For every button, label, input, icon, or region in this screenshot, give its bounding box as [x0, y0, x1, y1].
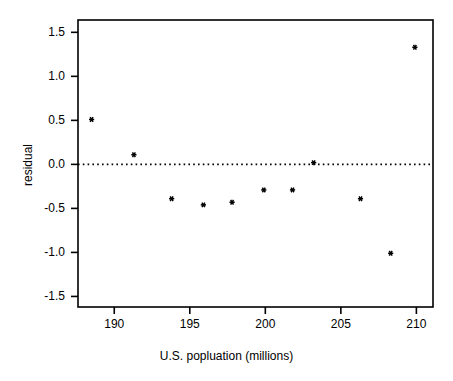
marker-center — [390, 252, 392, 254]
data-point — [261, 188, 266, 193]
data-point — [412, 45, 417, 50]
data-point — [358, 196, 363, 201]
marker-center — [263, 189, 265, 191]
x-tick-label-195: 195 — [170, 317, 210, 331]
x-tick-label-205: 205 — [321, 317, 361, 331]
y-tick-label-1.5: 1.5 — [25, 25, 65, 39]
x-tick-label-210: 210 — [396, 317, 436, 331]
marker-center — [171, 198, 173, 200]
data-point-series — [89, 45, 417, 256]
marker-center — [292, 189, 294, 191]
plot-frame — [78, 20, 433, 307]
marker-center — [91, 118, 93, 120]
data-point — [229, 200, 234, 205]
marker-center — [202, 204, 204, 206]
data-point — [89, 117, 94, 122]
marker-center — [133, 154, 135, 156]
marker-center — [313, 162, 315, 164]
x-tick-label-200: 200 — [245, 317, 285, 331]
plot-canvas — [0, 0, 453, 381]
plot-border — [78, 20, 433, 307]
data-point — [131, 152, 136, 157]
x-tick-label-190: 190 — [94, 317, 134, 331]
x-axis-label: U.S. popluation (millions) — [0, 349, 453, 363]
data-point — [388, 251, 393, 256]
y-tick-label-1.0: 1.0 — [25, 69, 65, 83]
residual-scatter-plot: 1901952002052101.51.00.50.0-0.5-1.0-1.5 … — [0, 0, 453, 381]
y-tick-label--1.0: -1.0 — [25, 245, 65, 259]
marker-center — [231, 201, 233, 203]
data-point — [290, 188, 295, 193]
y-tick-label--1.5: -1.5 — [25, 289, 65, 303]
marker-center — [414, 46, 416, 48]
marker-center — [359, 198, 361, 200]
tick-marks — [71, 32, 416, 314]
data-point — [201, 203, 206, 208]
data-point — [169, 196, 174, 201]
y-axis-label: residual — [21, 115, 35, 215]
